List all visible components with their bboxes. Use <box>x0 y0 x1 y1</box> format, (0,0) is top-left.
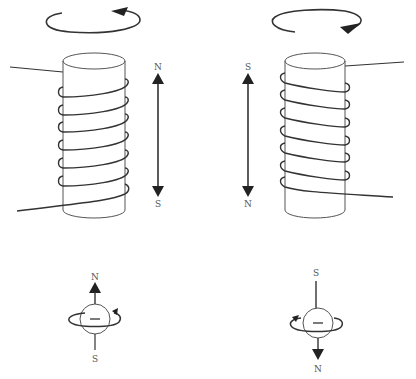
left-coil-label-bottom: S <box>155 199 161 209</box>
right-electron-arrowhead <box>312 349 324 360</box>
right-coil-label-bottom: N <box>244 199 252 209</box>
right-coil-windings <box>281 73 394 197</box>
left-rotation-arrow-icon <box>46 7 140 33</box>
right-electron-label-top: S <box>313 268 319 278</box>
left-electron-label-bottom: S <box>92 354 98 364</box>
right-electron: S N <box>290 268 342 374</box>
right-panel: S N S N <box>242 10 404 374</box>
right-coil-label-top: S <box>245 62 251 72</box>
right-rotation-arrow-icon <box>272 10 361 34</box>
right-coil-top-lead <box>345 62 404 66</box>
right-electron-label-bottom: N <box>314 364 322 374</box>
left-cylinder <box>63 53 125 218</box>
left-coil-windings <box>17 79 129 211</box>
right-pole-arrow: S N <box>242 62 254 209</box>
left-electron-arrowhead <box>89 282 101 293</box>
left-electron: N S <box>69 272 121 364</box>
left-coil-label-top: N <box>154 62 162 72</box>
diagram-canvas: N S N S <box>0 0 416 379</box>
left-coil-top-lead <box>10 67 63 72</box>
left-pole-arrow: N S <box>152 62 164 209</box>
left-electron-label-top: N <box>91 272 99 282</box>
left-panel: N S N S <box>10 7 164 364</box>
